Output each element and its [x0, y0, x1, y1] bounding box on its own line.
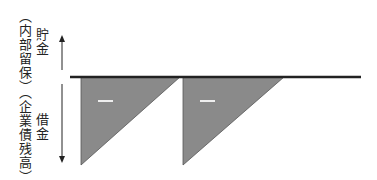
debt-triangle-2 [183, 77, 284, 165]
minus-sign-icon-2 [200, 100, 215, 102]
debt-savings-diagram [0, 0, 377, 180]
debt-triangle-1 [81, 77, 180, 165]
up-arrow-icon [59, 35, 65, 70]
minus-sign-icon-1 [98, 100, 113, 102]
down-arrow-icon [59, 84, 65, 163]
